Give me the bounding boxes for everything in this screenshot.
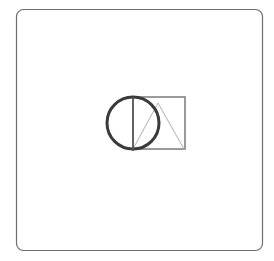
- diagram-svg: [0, 0, 274, 261]
- drawing-canvas: [0, 0, 274, 261]
- frame-border: [17, 10, 263, 251]
